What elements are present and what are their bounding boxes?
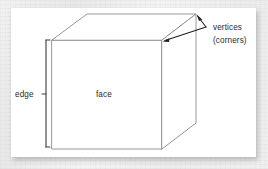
cube-wireframe	[52, 14, 196, 149]
arrowhead-upper	[197, 15, 203, 21]
edge-bracket	[42, 40, 50, 147]
cube-diagram: edge face vertices (corners)	[0, 0, 268, 169]
figure-root: edge face vertices (corners)	[0, 0, 268, 169]
corners-label: (corners)	[213, 36, 247, 45]
edge-label: edge	[15, 90, 34, 99]
vertices-label: vertices	[213, 23, 242, 32]
face-label: face	[96, 90, 112, 99]
